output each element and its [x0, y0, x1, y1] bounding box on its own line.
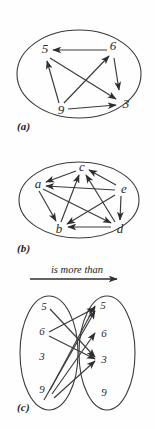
- diagram-panel-c: is more than 5 6 3 9 5 6 3: [0, 262, 155, 429]
- node-b-a: a: [35, 176, 42, 191]
- edge-9-to-5: [47, 61, 59, 103]
- node-a-3: 3: [122, 96, 130, 111]
- left-item-5: 5: [41, 300, 47, 312]
- edge-9-to-3: [68, 105, 116, 109]
- edge-L6-to-R3: [49, 336, 95, 359]
- right-item-3: 3: [100, 353, 107, 365]
- edge-a-to-b: [39, 191, 56, 221]
- edge-9-to-6: [64, 56, 109, 103]
- node-b-c: c: [79, 159, 85, 174]
- edges-b: [39, 170, 121, 227]
- node-b-e: e: [121, 181, 127, 196]
- edge-5-to-3: [50, 58, 116, 99]
- caption-c: (c): [17, 401, 30, 413]
- figure-page: 5 6 9 3 (a) a c e b: [0, 0, 155, 429]
- right-item-6: 6: [101, 327, 107, 339]
- edge-e-to-c: [89, 170, 116, 185]
- caption-b: (b): [17, 242, 30, 254]
- left-item-6: 6: [39, 325, 45, 337]
- edge-6-to-3: [114, 58, 119, 90]
- node-b-d: d: [117, 221, 124, 236]
- edges-c: [44, 306, 95, 400]
- set-boundary-right: [79, 296, 135, 410]
- edges-a: [47, 50, 119, 109]
- edge-L9-to-R3: [54, 361, 95, 398]
- edge-e-to-d: [120, 196, 121, 220]
- edge-b-to-c: [61, 175, 79, 222]
- edge-e-to-a: [46, 186, 115, 190]
- left-item-3: 3: [38, 350, 45, 362]
- left-item-9: 9: [39, 383, 45, 395]
- node-a-9: 9: [58, 102, 65, 117]
- node-a-5: 5: [42, 41, 49, 56]
- relation-label: is more than: [51, 264, 103, 275]
- node-b-b: b: [56, 221, 63, 236]
- caption-a: (a): [17, 120, 30, 132]
- diagram-panel-b: a c e b d (b): [0, 145, 155, 265]
- edge-c-to-a: [46, 171, 76, 182]
- diagram-panel-a: 5 6 9 3 (a): [0, 0, 155, 145]
- right-item-9: 9: [101, 386, 107, 398]
- node-a-6: 6: [110, 38, 117, 53]
- right-item-5: 5: [100, 299, 106, 311]
